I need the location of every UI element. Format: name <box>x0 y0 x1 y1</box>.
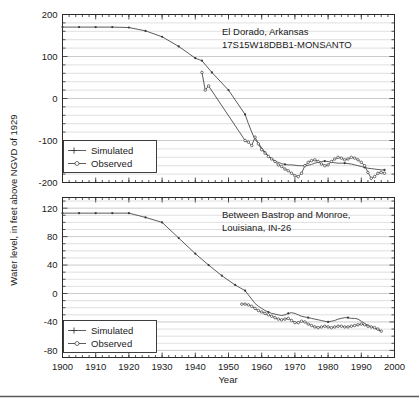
marker <box>307 323 310 326</box>
marker <box>350 325 353 328</box>
bottom-annotation-line-1: Between Bastrop and Monroe, <box>222 209 350 220</box>
marker <box>343 326 346 329</box>
marker <box>194 57 196 59</box>
marker <box>330 326 333 329</box>
marker <box>234 284 236 286</box>
y-tick-label: 40 <box>47 259 58 270</box>
bottom-legend[interactable]: Simulated Observed <box>64 321 157 353</box>
marker <box>244 113 246 115</box>
marker <box>254 307 257 310</box>
marker <box>304 164 307 167</box>
marker <box>310 324 313 327</box>
marker <box>363 324 366 327</box>
marker <box>380 330 383 333</box>
x-tick-label: 1950 <box>218 361 239 372</box>
y-tick-label: -100 <box>38 135 57 146</box>
y-tick-label: 100 <box>42 51 58 62</box>
marker <box>277 318 280 321</box>
marker <box>310 159 313 162</box>
marker <box>370 326 373 329</box>
marker <box>317 326 320 329</box>
marker <box>247 141 250 144</box>
marker <box>284 318 287 321</box>
marker <box>377 172 380 175</box>
x-tick-label: 1960 <box>251 361 272 372</box>
x-axis-label: Year <box>218 374 237 385</box>
marker <box>128 26 130 28</box>
marker <box>284 168 287 171</box>
marker <box>78 26 80 28</box>
bottom-legend-obs-label: Observed <box>91 338 132 349</box>
marker <box>333 326 336 329</box>
marker <box>161 36 163 38</box>
marker <box>287 169 290 172</box>
marker <box>327 321 329 323</box>
marker <box>244 290 246 292</box>
marker <box>367 171 370 174</box>
y-tick-label: 120 <box>42 203 58 214</box>
y-tick-label: -80 <box>44 345 58 356</box>
marker <box>254 136 257 139</box>
marker <box>297 321 300 324</box>
bottom-legend-sim-label: Simulated <box>91 325 133 336</box>
circle-icon <box>75 162 79 166</box>
marker <box>244 139 247 142</box>
marker <box>128 212 130 214</box>
water-level-figure: Water level, in feet above NGVD of 1929 … <box>0 0 419 404</box>
y-tick-label: 0 <box>52 288 57 299</box>
marker <box>264 152 267 155</box>
marker <box>300 320 303 323</box>
marker <box>95 26 97 28</box>
marker <box>267 155 270 158</box>
y-tick-label: -40 <box>44 316 58 327</box>
circle-icon <box>75 342 79 346</box>
marker <box>280 319 283 322</box>
top-legend[interactable]: Simulated Observed <box>64 141 157 173</box>
marker <box>314 159 317 162</box>
marker <box>324 164 327 167</box>
marker <box>260 148 263 151</box>
marker <box>207 264 209 266</box>
marker <box>360 161 363 164</box>
marker <box>178 237 180 239</box>
marker <box>347 158 350 161</box>
marker <box>314 326 317 329</box>
bottom-annotation-line-2: Louisiana, IN-26 <box>222 222 291 233</box>
marker <box>270 315 273 318</box>
marker <box>78 212 80 214</box>
marker <box>280 165 283 168</box>
marker <box>317 160 320 163</box>
marker <box>373 326 376 329</box>
marker <box>290 172 293 175</box>
marker <box>357 159 360 162</box>
x-tick-label: 2000 <box>384 361 405 372</box>
marker <box>61 26 63 28</box>
marker <box>161 221 163 223</box>
marker <box>297 175 300 178</box>
marker <box>324 160 326 162</box>
marker <box>347 326 350 329</box>
marker <box>363 164 366 167</box>
x-tick-label: 1970 <box>284 361 305 372</box>
top-annotation-line-1: El Dorado, Arkansas <box>222 26 309 37</box>
marker <box>227 89 229 91</box>
marker <box>294 321 297 324</box>
top-annotation-line-2: 17S15W18DBB1-MONSANTO <box>222 39 352 50</box>
marker <box>353 324 356 327</box>
marker <box>327 326 330 329</box>
marker <box>367 325 370 328</box>
marker <box>241 303 244 306</box>
marker <box>204 89 207 92</box>
marker <box>307 317 309 319</box>
marker <box>194 253 196 255</box>
marker <box>337 156 340 159</box>
marker <box>373 175 376 178</box>
marker <box>144 30 146 32</box>
marker <box>330 160 333 163</box>
marker <box>344 162 346 164</box>
marker <box>290 319 293 322</box>
marker <box>333 158 336 161</box>
marker <box>144 216 146 218</box>
marker <box>370 177 373 180</box>
x-tick-label: 1900 <box>52 361 73 372</box>
